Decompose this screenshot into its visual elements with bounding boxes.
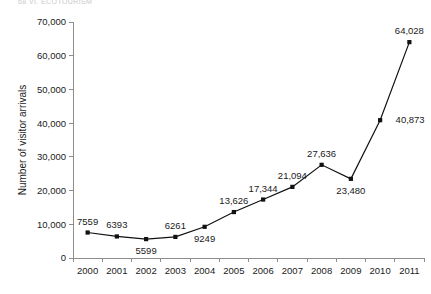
data-point-marker [86,230,90,234]
data-point-marker [407,40,411,44]
x-tick-label: 2010 [370,265,391,276]
data-point-label: 6261 [165,220,186,231]
data-point-marker [320,163,324,167]
y-axis-tick-group: 010,00020,00030,00040,00050,00060,00070,… [37,16,73,263]
data-point-label: 7559 [77,216,98,227]
y-axis-title: Number of visitor arrivals [17,85,28,196]
y-tick-label: 20,000 [37,185,66,196]
data-point-label: 40,873 [396,114,425,125]
x-tick-label: 2000 [77,265,98,276]
data-point-label: 23,480 [336,185,365,196]
data-point-marker [115,234,119,238]
data-point-marker [290,185,294,189]
x-axis-tick-group: 2000200120022003200420052006200720082009… [73,258,424,276]
data-point-label: 9249 [194,233,215,244]
series-label-group: 7559639355996261924913,62617,34421,09427… [77,25,425,256]
data-point-label: 64,028 [395,25,424,36]
y-tick-label: 70,000 [37,16,66,27]
data-point-label: 17,344 [249,183,278,194]
y-tick-label: 30,000 [37,151,66,162]
x-tick-label: 2006 [253,265,274,276]
data-point-marker [349,177,353,181]
x-tick-label: 2002 [136,265,157,276]
series-polyline [88,42,410,239]
data-point-marker [232,210,236,214]
x-tick-label: 2007 [282,265,303,276]
y-tick-label: 60,000 [37,50,66,61]
data-point-marker [173,235,177,239]
x-tick-label: 2008 [311,265,332,276]
data-point-marker [203,225,207,229]
x-tick-label: 2011 [399,265,419,276]
x-tick-label: 2004 [194,265,215,276]
y-tick-label: 40,000 [37,118,66,129]
data-point-marker [144,237,148,241]
y-tick-label: 0 [61,252,66,263]
data-point-label: 5599 [136,245,157,256]
visitor-arrivals-line-chart: 010,00020,00030,00040,00050,00060,00070,… [0,0,431,294]
data-point-label: 21,094 [278,170,307,181]
x-tick-label: 2001 [106,265,127,276]
data-point-label: 27,636 [307,148,336,159]
y-tick-label: 50,000 [37,84,66,95]
chart-svg: 010,00020,00030,00040,00050,00060,00070,… [0,0,431,294]
data-point-label: 13,626 [219,195,248,206]
y-tick-label: 10,000 [37,219,66,230]
x-tick-label: 2005 [223,265,244,276]
data-point-label: 6393 [106,219,127,230]
x-tick-label: 2009 [340,265,361,276]
data-point-marker [261,197,265,201]
data-point-marker [378,118,382,122]
x-tick-label: 2003 [165,265,186,276]
series-marker-group [86,40,412,241]
